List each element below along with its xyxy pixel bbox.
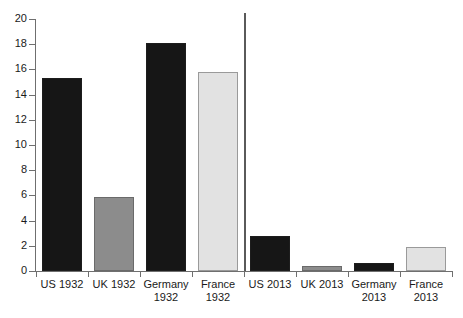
y-tick-label-text: 2 — [3, 240, 27, 251]
bar — [406, 247, 446, 271]
x-axis-category-label: US 1932 — [36, 278, 88, 291]
y-tick-label: 18 — [0, 38, 27, 49]
y-tick-mark — [29, 95, 35, 96]
y-tick-mark — [29, 19, 35, 20]
y-tick-mark — [29, 271, 35, 272]
x-axis-category-label: Germany 1932 — [140, 278, 192, 304]
y-tick-label-text: 16 — [3, 63, 27, 74]
x-tick-mark — [348, 272, 349, 277]
x-axis-category-label: UK 1932 — [88, 278, 140, 291]
x-tick-mark — [192, 272, 193, 277]
x-tick-mark — [88, 272, 89, 277]
y-tick-label-text: 0 — [3, 265, 27, 276]
bar — [146, 43, 186, 271]
x-tick-mark — [400, 272, 401, 277]
y-tick-label-text: 6 — [3, 189, 27, 200]
y-tick-mark — [29, 246, 35, 247]
y-tick-label: 8 — [0, 164, 27, 175]
x-axis-category-label: UK 2013 — [296, 278, 348, 291]
y-tick-label-text: 14 — [3, 89, 27, 100]
x-axis-category-label: Germany 2013 — [348, 278, 400, 304]
x-axis-category-label: France 2013 — [400, 278, 452, 304]
x-tick-mark — [296, 272, 297, 277]
y-tick-label: 12 — [0, 114, 27, 125]
x-tick-mark — [452, 272, 453, 277]
y-tick-mark — [29, 170, 35, 171]
y-tick-label: 20 — [0, 13, 27, 24]
y-tick-label: 10 — [0, 139, 27, 150]
y-tick-label: 0 — [0, 265, 27, 276]
x-tick-mark — [140, 272, 141, 277]
bar — [94, 197, 134, 271]
bar-chart: 02468101214161820 US 1932UK 1932Germany … — [0, 0, 463, 318]
y-tick-label-text: 4 — [3, 215, 27, 226]
y-tick-mark — [29, 69, 35, 70]
y-tick-mark — [29, 221, 35, 222]
bar — [302, 266, 342, 271]
y-tick-label: 4 — [0, 215, 27, 226]
y-tick-mark — [29, 44, 35, 45]
y-tick-label-text: 18 — [3, 38, 27, 49]
y-tick-mark — [29, 120, 35, 121]
y-tick-label: 2 — [0, 240, 27, 251]
x-axis-category-label: France 1932 — [192, 278, 244, 304]
x-tick-mark — [244, 272, 245, 277]
y-tick-label-text: 12 — [3, 114, 27, 125]
era-divider — [244, 13, 246, 271]
y-tick-label: 14 — [0, 89, 27, 100]
bar — [198, 72, 238, 271]
bar — [354, 263, 394, 271]
y-tick-label-text: 8 — [3, 164, 27, 175]
bar — [42, 78, 82, 271]
y-tick-mark — [29, 145, 35, 146]
y-tick-label: 16 — [0, 63, 27, 74]
y-tick-mark — [29, 195, 35, 196]
x-axis-category-label: US 2013 — [244, 278, 296, 291]
bar — [250, 236, 290, 271]
y-tick-label-text: 20 — [3, 13, 27, 24]
y-tick-label: 6 — [0, 189, 27, 200]
y-tick-label-text: 10 — [3, 139, 27, 150]
x-tick-mark — [36, 272, 37, 277]
